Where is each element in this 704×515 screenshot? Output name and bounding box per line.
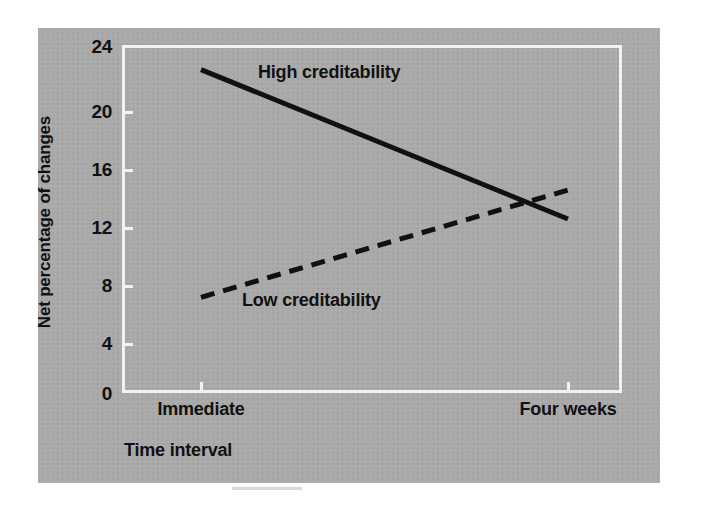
x-tick-mark-four-weeks — [567, 382, 570, 393]
y-tick-label-4: 4 — [72, 333, 112, 355]
y-tick-label-0: 0 — [72, 383, 112, 405]
series-label-low-creditability: Low creditability — [242, 290, 381, 311]
y-tick-label-4-wrap: 4 — [62, 333, 112, 355]
x-tick-label-immediate: Immediate — [157, 399, 244, 420]
x-tick-label-four-weeks: Four weeks — [519, 399, 616, 420]
x-axis-title: Time interval — [124, 440, 232, 461]
y-tick-label-8: 8 — [72, 275, 112, 297]
y-tick-label-8-wrap: 8 — [62, 275, 112, 297]
y-tick-label-0-wrap: 0 — [62, 383, 112, 405]
y-tick-label-20-wrap: 20 — [62, 101, 112, 123]
y-tick-label-16: 16 — [72, 159, 112, 181]
y-tick-mark-8 — [122, 285, 133, 288]
y-tick-mark-16 — [122, 169, 133, 172]
y-tick-mark-20 — [122, 111, 133, 114]
y-axis-title: Net percentage of changes — [35, 107, 55, 337]
y-tick-mark-4 — [122, 343, 133, 346]
y-tick-label-12: 12 — [72, 217, 112, 239]
plot-frame — [122, 45, 622, 393]
y-tick-label-20: 20 — [72, 101, 112, 123]
y-tick-label-24-wrap: 24 — [62, 36, 112, 58]
x-tick-mark-immediate — [200, 382, 203, 393]
series-label-high-creditability: High creditability — [258, 62, 400, 83]
y-tick-label-24: 24 — [72, 36, 112, 58]
line-chart: 24 20 16 12 8 4 0 Immediate Four weeks N… — [0, 0, 704, 515]
y-tick-label-16-wrap: 16 — [62, 159, 112, 181]
y-tick-mark-12 — [122, 227, 133, 230]
y-tick-label-12-wrap: 12 — [62, 217, 112, 239]
